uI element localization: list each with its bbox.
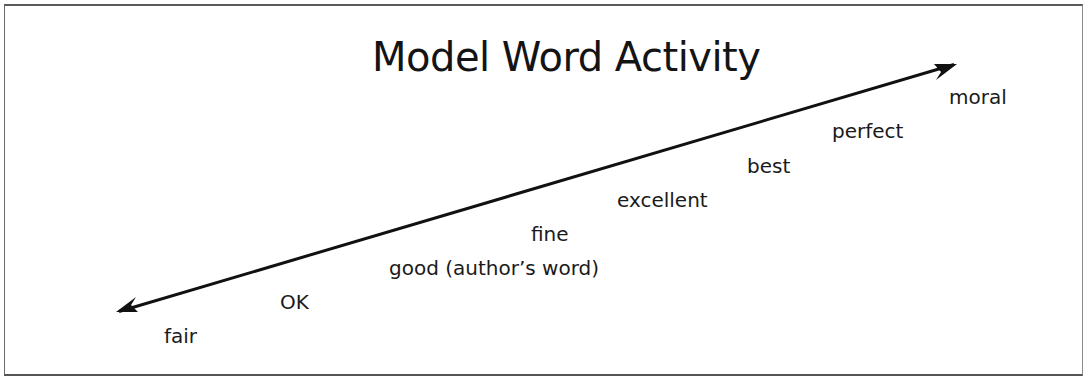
word-excellent: excellent — [617, 188, 708, 212]
word-good: good (author’s word) — [389, 256, 599, 280]
left-arrowhead-icon — [116, 297, 138, 312]
word-moral: moral — [949, 85, 1007, 109]
right-arrowhead-icon — [934, 64, 957, 80]
word-fair: fair — [164, 324, 197, 348]
word-ok: OK — [280, 290, 309, 314]
word-perfect: perfect — [832, 119, 903, 143]
word-fine: fine — [531, 222, 569, 246]
word-best: best — [747, 154, 790, 178]
